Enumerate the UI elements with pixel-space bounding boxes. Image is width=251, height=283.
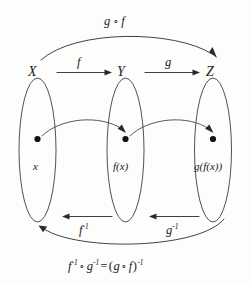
element-dot-gfx — [210, 136, 216, 142]
set-ellipse-z — [195, 78, 232, 222]
formula-equals: = — [100, 259, 107, 273]
arrowhead-f — [105, 69, 113, 75]
g-inverse-exponent: -1 — [172, 222, 178, 231]
element-label-x: x — [32, 160, 38, 172]
f-inverse-exponent: -1 — [82, 222, 88, 231]
arrow-arc-element-f — [42, 120, 122, 136]
element-dot-x — [34, 136, 40, 142]
set-ellipse-y — [107, 78, 144, 222]
math-diagram-canvas: X Y Z f g g∘f x f(x) g(f(x)) — [0, 0, 251, 283]
formula-rhs-first: g — [113, 259, 119, 273]
arrowhead-f-inverse — [62, 213, 70, 219]
map-label-f-inverse: f-1 — [79, 222, 89, 237]
map-label-g-inverse: g-1 — [166, 222, 179, 237]
arrowhead-inverse-composition — [39, 226, 48, 233]
arrowhead-element-f — [118, 124, 126, 133]
set-label-x: X — [27, 64, 37, 79]
arrow-arc-composition — [41, 36, 212, 60]
composition-operator: ∘ — [113, 17, 119, 27]
map-label-g: g — [165, 55, 171, 69]
arrowhead-composition — [209, 47, 217, 58]
formula-operator-right: ∘ — [121, 262, 127, 272]
composition-right: f — [121, 14, 126, 28]
function-composition-diagram: X Y Z f g g∘f x f(x) g(f(x)) — [0, 0, 251, 283]
formula-lhs-second-exponent: -1 — [93, 258, 99, 267]
arrow-arc-inverse-composition — [44, 219, 224, 244]
element-label-fx: f(x) — [113, 160, 129, 173]
arrowhead-g-inverse — [149, 213, 157, 219]
formula-operator-left: ∘ — [79, 262, 85, 272]
composition-left: g — [104, 14, 110, 28]
arrowhead-g — [193, 69, 201, 75]
formula-rhs-open: ( — [109, 259, 113, 273]
map-label-f: f — [77, 55, 82, 69]
formula-rhs-exponent: -1 — [137, 258, 143, 267]
element-label-gfx: g(f(x)) — [194, 160, 222, 173]
set-ellipse-x — [19, 78, 56, 222]
element-dot-fx — [122, 136, 128, 142]
formula-rhs-close: ) — [133, 259, 137, 273]
set-label-y: Y — [117, 64, 127, 79]
formula-lhs-first-exponent: -1 — [71, 258, 77, 267]
arrowhead-element-g — [205, 124, 213, 133]
composition-label: g∘f — [104, 14, 126, 28]
inverse-composition-formula: f-1∘g-1=(g∘f)-1 — [68, 258, 144, 273]
set-label-z: Z — [206, 64, 214, 79]
arrow-arc-element-g — [130, 120, 209, 136]
